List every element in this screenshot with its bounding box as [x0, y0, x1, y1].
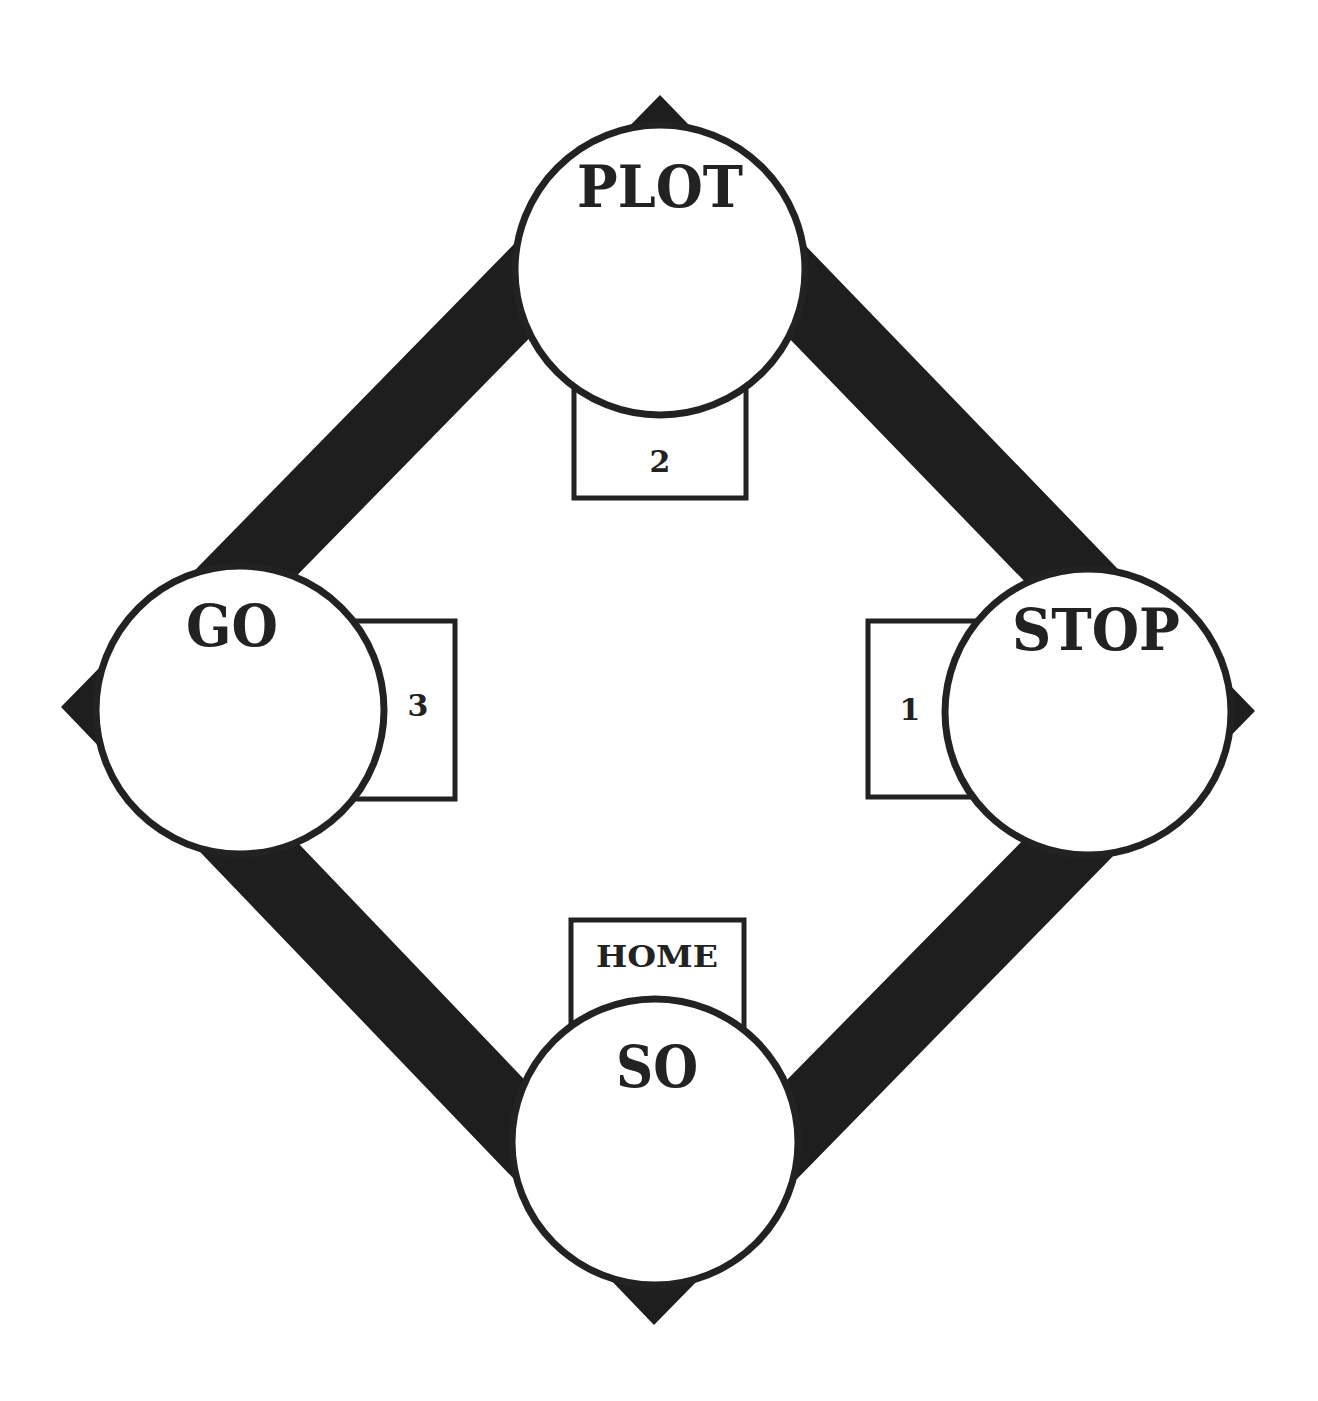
station-go: GO — [96, 566, 384, 854]
station-so: SO — [512, 999, 798, 1285]
go-label: GO — [186, 592, 278, 660]
plot-label: PLOT — [577, 153, 743, 221]
so-label: SO — [616, 1033, 698, 1101]
box-1-label: 1 — [900, 692, 921, 727]
box-2-label: 2 — [650, 444, 671, 479]
station-plot: PLOT — [515, 125, 805, 415]
box-3-label: 3 — [408, 688, 429, 723]
station-stop: STOP — [945, 569, 1231, 855]
diamond-board: 2 3 1 HOME PLOT GO STOP SO — [0, 0, 1318, 1401]
box-home-label: HOME — [596, 939, 718, 974]
stop-label: STOP — [1012, 596, 1180, 664]
